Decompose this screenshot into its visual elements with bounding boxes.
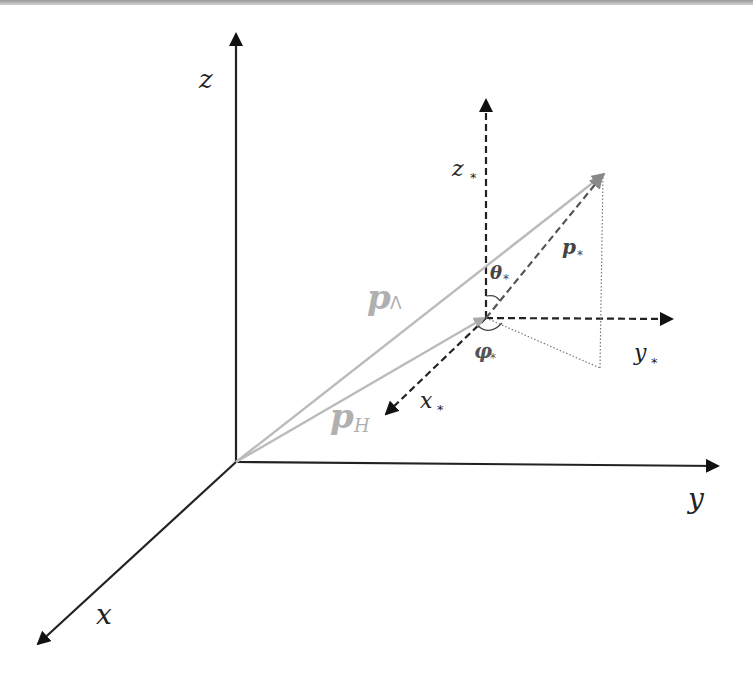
svg-text:*: * xyxy=(470,170,477,185)
y-axis-label: y xyxy=(686,482,705,515)
y-star-axis xyxy=(486,318,672,319)
svg-text:y: y xyxy=(633,340,647,365)
svg-text:x: x xyxy=(420,388,433,413)
z-star-label: z * xyxy=(451,156,477,185)
phi-arc xyxy=(478,323,502,330)
svg-text:p: p xyxy=(330,396,354,436)
p-h-label: p H xyxy=(330,396,370,436)
phi-star-label: φ * xyxy=(474,339,496,365)
p-lambda-vector xyxy=(236,174,604,462)
p-lambda-label: p Λ xyxy=(367,277,402,317)
p-h-vector xyxy=(236,318,484,462)
svg-text:*: * xyxy=(651,355,658,370)
projection-lines xyxy=(486,174,603,368)
svg-text:*: * xyxy=(503,272,509,286)
svg-text:p: p xyxy=(562,235,576,259)
svg-text:θ: θ xyxy=(490,262,502,283)
theta-star-label: θ * xyxy=(490,262,509,286)
y-star-label: y * xyxy=(633,340,658,370)
svg-text:*: * xyxy=(490,351,496,365)
p-star-label: p * xyxy=(562,235,583,262)
svg-text:z: z xyxy=(451,156,464,181)
y-axis xyxy=(236,462,718,466)
x-axis xyxy=(38,462,236,644)
p-star-vector xyxy=(486,176,602,318)
x-axis-label: x xyxy=(96,598,112,631)
svg-text:*: * xyxy=(437,402,444,417)
x-star-label: x * xyxy=(420,388,444,417)
svg-text:*: * xyxy=(577,248,583,262)
coordinate-diagram: z y x z * y * x * p * p Λ p H θ * φ * xyxy=(0,0,753,678)
theta-arc xyxy=(486,296,500,301)
svg-text:p: p xyxy=(367,277,391,317)
svg-text:H: H xyxy=(353,415,370,436)
z-axis-label: z xyxy=(198,64,213,94)
svg-text:Λ: Λ xyxy=(390,293,402,313)
